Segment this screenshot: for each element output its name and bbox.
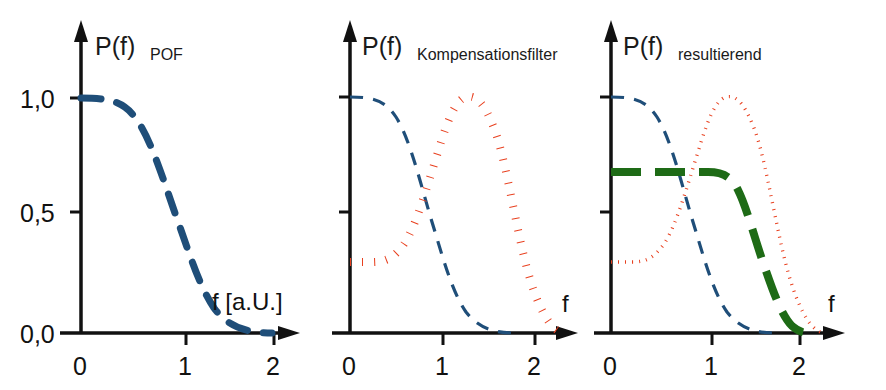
panel-title-sub: POF — [150, 46, 183, 63]
x-axis-arrow — [556, 326, 578, 340]
x-axis-arrow — [278, 326, 300, 340]
panel-title-main: P(f) — [362, 32, 402, 60]
curve-pof-thin — [350, 97, 514, 333]
x-tick-label-2: 2 — [792, 352, 806, 380]
y-tick-label-0: 0,0 — [20, 320, 55, 348]
x-axis-label: f [a.U.] — [212, 288, 283, 315]
x-tick-label-0: 0 — [342, 352, 356, 380]
x-tick-label-0: 0 — [73, 352, 87, 380]
panel-pof-plot: P(f) POF 1,0 0,5 0,0 0 1 2 f [a.U.] — [0, 0, 300, 390]
panel-resultierend-plot: P(f) resultierend 0 1 2 f — [590, 0, 886, 390]
x-tick-label-1: 1 — [704, 352, 718, 380]
x-axis-label: f — [562, 290, 569, 317]
panel-kompensationsfilter-plot: P(f) Kompensationsfilter 0 1 2 f — [300, 0, 590, 390]
panel-title-sub: resultierend — [678, 46, 762, 63]
x-tick-label-2: 2 — [266, 352, 280, 380]
x-axis-label: f — [828, 290, 835, 317]
figure-root: P(f) POF 1,0 0,5 0,0 0 1 2 f [a.U.] — [0, 0, 886, 390]
panel-kompensationsfilter: P(f) Kompensationsfilter 0 1 2 f — [300, 0, 590, 390]
y-axis-arrow — [343, 20, 357, 42]
curve-kompensationsfilter-thin — [611, 97, 826, 333]
x-tick-label-1: 1 — [178, 352, 192, 380]
curve-pof-thin — [611, 97, 775, 333]
x-tick-label-1: 1 — [435, 352, 449, 380]
y-tick-label-05: 0,5 — [20, 199, 55, 227]
x-axis-arrow — [823, 326, 845, 340]
x-tick-label-0: 0 — [603, 352, 617, 380]
panel-title-main: P(f) — [623, 32, 663, 60]
y-tick-label-1: 1,0 — [20, 85, 55, 113]
panel-pof: P(f) POF 1,0 0,5 0,0 0 1 2 f [a.U.] — [0, 0, 300, 390]
panel-resultierend: P(f) resultierend 0 1 2 f — [590, 0, 886, 390]
y-axis-arrow — [74, 20, 88, 42]
panel-title-main: P(f) — [95, 32, 135, 60]
x-tick-label-2: 2 — [527, 352, 541, 380]
y-axis-arrow — [604, 20, 618, 42]
curve-resultierend — [611, 172, 810, 333]
curve-kompensationsfilter — [350, 97, 566, 333]
panel-title-sub: Kompensationsfilter — [417, 46, 558, 63]
